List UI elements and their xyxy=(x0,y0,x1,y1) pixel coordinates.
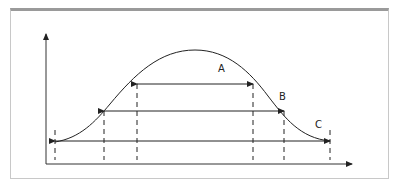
dashed-guides xyxy=(55,84,330,160)
label-b: B xyxy=(279,91,286,102)
width-arrows xyxy=(55,84,330,141)
label-c: C xyxy=(315,119,322,130)
bell-curve-diagram: A B C xyxy=(0,0,400,193)
bell-curve xyxy=(55,50,330,142)
label-a: A xyxy=(218,63,225,74)
axes xyxy=(46,34,352,164)
